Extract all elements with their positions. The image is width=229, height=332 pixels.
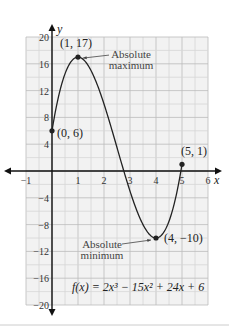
y-tick-label: −12 bbox=[33, 246, 49, 257]
data-point bbox=[49, 128, 54, 133]
y-axis-arrow-down bbox=[49, 309, 56, 316]
point-label: (1, 17) bbox=[60, 36, 92, 50]
y-tick-label: −16 bbox=[33, 273, 49, 284]
x-tick-label: 2 bbox=[102, 175, 107, 186]
data-point bbox=[153, 235, 158, 240]
data-point bbox=[179, 162, 184, 167]
data-point bbox=[75, 55, 80, 60]
x-axis-arrow-left bbox=[4, 168, 11, 175]
y-tick-label: 4 bbox=[44, 139, 49, 150]
y-axis-arrow-up bbox=[49, 24, 56, 31]
y-tick-label: −20 bbox=[33, 300, 49, 311]
y-tick-label: 12 bbox=[39, 86, 49, 97]
y-tick-label: −4 bbox=[38, 193, 49, 204]
x-tick-label: 1 bbox=[76, 175, 81, 186]
chart: yx −112345620161284−4−8−12−16−20 (0, 6)(… bbox=[0, 0, 229, 332]
y-axis-label: y bbox=[56, 22, 63, 36]
function-label: f(x) = 2x³ − 15x² + 24x + 6 bbox=[72, 280, 204, 294]
y-tick-label: −8 bbox=[38, 220, 49, 231]
point-label: (0, 6) bbox=[57, 126, 83, 140]
annotation-text: minimum bbox=[81, 249, 124, 261]
annotation-text: maximum bbox=[109, 59, 154, 71]
x-axis-label: x bbox=[213, 173, 220, 187]
y-tick-label: 20 bbox=[39, 32, 49, 43]
x-tick-label: −1 bbox=[21, 175, 32, 186]
y-tick-label: 16 bbox=[39, 59, 49, 70]
x-tick-label: 4 bbox=[154, 175, 159, 186]
x-tick-label: 6 bbox=[206, 175, 211, 186]
point-label: (5, 1) bbox=[181, 144, 207, 158]
point-label: (4, −10) bbox=[164, 231, 203, 245]
y-tick-label: 8 bbox=[44, 112, 49, 123]
